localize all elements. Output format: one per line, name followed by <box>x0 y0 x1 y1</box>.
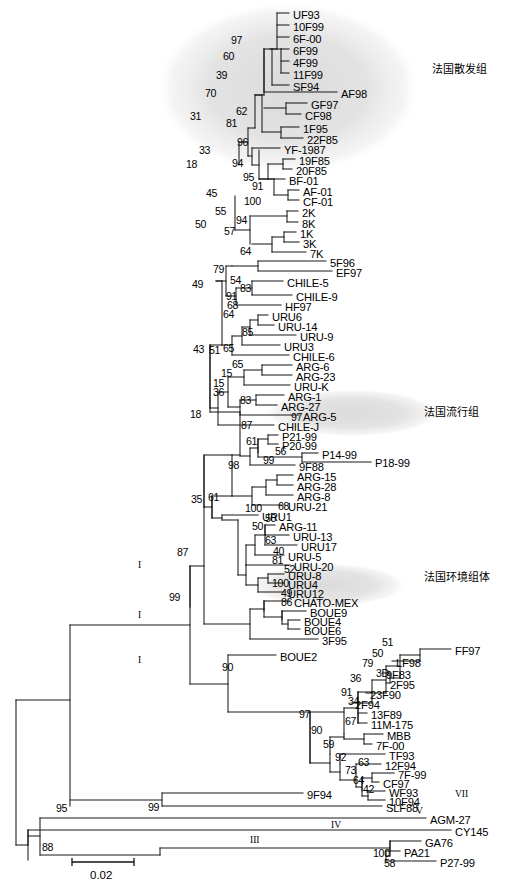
taxon-label-sf94: SF94 <box>293 82 319 93</box>
bootstrap-value-2: 39 <box>216 70 227 80</box>
bootstrap-value-22: 49 <box>192 279 203 289</box>
bootstrap-value-74: 42 <box>363 784 374 794</box>
bootstrap-value-12: 91 <box>252 181 263 191</box>
bootstrap-value-62: 3D <box>376 668 389 678</box>
bootstrap-value-9: 94 <box>232 158 243 168</box>
taxon-label-cf98: CF98 <box>305 111 332 122</box>
bootstrap-value-18: 57 <box>224 226 235 236</box>
taxon-label-4f99: 4F99 <box>293 58 318 69</box>
bootstrap-value-77: 88 <box>42 842 53 852</box>
bootstrap-value-79: 58 <box>384 858 395 868</box>
bootstrap-value-20: 79 <box>213 264 224 274</box>
bootstrap-value-41: 99 <box>263 455 274 465</box>
bootstrap-value-60: 50 <box>372 648 383 658</box>
bootstrap-value-66: 97 <box>299 709 310 719</box>
bootstrap-value-34: 36 <box>213 387 224 397</box>
bootstrap-value-75: 95 <box>56 803 67 813</box>
bootstrap-value-52: 52 <box>284 564 295 574</box>
bootstrap-value-16: 94 <box>236 215 247 225</box>
taxon-label-ef97: EF97 <box>336 268 362 279</box>
bootstrap-value-43: 61 <box>208 492 219 502</box>
bootstrap-value-36: 97 <box>291 412 302 422</box>
bootstrap-value-67: 67 <box>345 716 356 726</box>
bootstrap-value-61: 79 <box>362 658 373 668</box>
bootstrap-value-49: 63 <box>265 535 276 545</box>
bootstrap-value-57: 99 <box>169 592 180 602</box>
bootstrap-value-40: 56 <box>275 446 286 456</box>
bootstrap-value-42: 98 <box>228 460 239 470</box>
bootstrap-value-71: 63 <box>358 757 369 767</box>
taxon-label-p18-99: P18-99 <box>375 458 410 469</box>
bootstrap-value-8: 33 <box>199 145 210 155</box>
phylogenetic-tree-figure: UF9310F996F-006F994F9911F99SF94AF98GF97C… <box>0 0 529 890</box>
taxon-label-pa21: PA21 <box>404 848 430 859</box>
bootstrap-value-31: 65 <box>232 359 243 369</box>
bootstrap-value-65: 34 <box>348 696 359 706</box>
bootstrap-value-5: 31 <box>190 111 201 121</box>
taxon-label-uru-21: URU-21 <box>288 502 327 513</box>
taxon-label-p14-99: P14-99 <box>322 450 357 461</box>
group-label-epidemic: 法国流行组 <box>424 403 479 419</box>
bootstrap-value-13: 100 <box>244 196 261 206</box>
bootstrap-value-59: 51 <box>382 637 393 647</box>
bootstrap-value-38: 18 <box>190 409 201 419</box>
clade-numeral-iv-5: IV <box>331 820 341 830</box>
bootstrap-value-3: 70 <box>205 88 216 98</box>
bootstrap-value-15: 55 <box>215 206 226 216</box>
taxon-label-7k: 7K <box>310 249 323 260</box>
bootstrap-value-48: 50 <box>252 521 263 531</box>
bootstrap-value-30: 43 <box>193 344 204 354</box>
clade-numeral-i-2: I <box>138 655 141 665</box>
bootstrap-value-1: 60 <box>223 51 234 61</box>
taxon-label-p20-99: P20-99 <box>282 441 317 452</box>
taxon-label-6f-00: 6F-00 <box>293 34 321 45</box>
bootstrap-value-26: 64 <box>223 309 234 319</box>
clade-numeral-vii-3: VII <box>455 789 468 799</box>
bootstrap-value-47: 50 <box>265 513 276 523</box>
bootstrap-value-45: 100 <box>245 503 262 513</box>
bootstrap-value-37: 87 <box>241 420 252 430</box>
bootstrap-value-35: 83 <box>240 395 251 405</box>
clade-numeral-i-0: I <box>138 560 141 570</box>
taxon-label-agm-27: AGM-27 <box>430 815 470 826</box>
bootstrap-value-6: 81 <box>226 118 237 128</box>
bootstrap-value-68: 90 <box>311 725 322 735</box>
taxon-label-chile-5: CHILE-5 <box>287 278 329 289</box>
bootstrap-value-27: 85 <box>242 327 253 337</box>
bootstrap-value-23: 83 <box>240 283 251 293</box>
taxon-label-lf98: LF98 <box>396 658 421 669</box>
clade-numeral-v-4: V <box>416 806 423 816</box>
taxon-label-11f99: 11F99 <box>293 70 323 81</box>
bootstrap-value-55: 86 <box>281 597 292 607</box>
bootstrap-value-51: 81 <box>272 555 283 565</box>
bootstrap-value-76: 99 <box>148 802 159 812</box>
bootstrap-value-19: 64 <box>240 246 251 256</box>
bootstrap-value-39: 61 <box>246 436 257 446</box>
taxon-label-cy145: CY145 <box>455 827 488 838</box>
bootstrap-value-69: 59 <box>323 739 334 749</box>
bootstrap-value-7: 96 <box>237 137 248 147</box>
taxon-label-boue2: BOUE2 <box>280 652 317 663</box>
bootstrap-value-14: 45 <box>206 188 217 198</box>
clade-numeral-iii-6: III <box>250 835 260 845</box>
taxon-label-p27-99: P27-99 <box>440 858 475 869</box>
bootstrap-value-46: 68 <box>278 501 289 511</box>
bootstrap-value-4: 62 <box>236 106 247 116</box>
bootstrap-value-10: 18 <box>186 159 197 169</box>
scale-bar <box>72 858 134 866</box>
clade-numeral-i-1: I <box>138 610 141 620</box>
bootstrap-value-0: 97 <box>231 35 242 45</box>
bootstrap-value-70: 92 <box>335 752 346 762</box>
taxon-label-af98: AF98 <box>341 89 367 100</box>
taxon-label-9f94: 9F94 <box>307 790 332 801</box>
taxon-label-uf93: UF93 <box>293 10 320 21</box>
group-label-sporadic: 法国散发组 <box>432 60 487 76</box>
bootstrap-value-29: 51 <box>209 345 220 355</box>
tree-canvas <box>0 0 529 890</box>
group-label-environment: 法国环境组体 <box>424 568 490 584</box>
bootstrap-value-28: 65 <box>223 343 234 353</box>
taxon-label-6f99: 6F99 <box>293 46 318 57</box>
taxon-label-10f99: 10F99 <box>293 22 324 33</box>
bootstrap-value-44: 35 <box>191 494 202 504</box>
bootstrap-value-58: 90 <box>222 662 233 672</box>
